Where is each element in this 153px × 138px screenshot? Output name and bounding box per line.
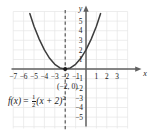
x-tick-label-3: 3: [115, 72, 119, 81]
equation-exponent: 2: [62, 94, 65, 101]
x-tick-label-neg7: −7: [9, 72, 17, 81]
vertex-point-marker: [63, 67, 67, 71]
x-tick-label-neg6: −6: [20, 72, 28, 81]
y-tick-label-3: 3: [79, 36, 83, 45]
y-tick-label-5: 5: [79, 17, 83, 26]
function-equation: f(x) = 12(x + 2)2: [8, 94, 66, 108]
y-axis-label: y: [78, 4, 83, 13]
graph-canvas: −7 −6 −5 −4 −3 −2 −1 1 2 3 1 2 3 4 5 −1 …: [0, 0, 153, 138]
y-axis: [83, 6, 88, 127]
y-tick-label-neg4: −4: [75, 103, 83, 112]
y-tick-label-neg5: −5: [75, 113, 83, 122]
x-tick-label-neg5: −5: [30, 72, 38, 81]
x-tick-label-neg4: −4: [40, 72, 48, 81]
equation-binomial: (x + 2): [36, 96, 62, 106]
x-axis-label: x: [142, 69, 147, 78]
grid-lines: [13, 12, 127, 129]
x-axis: [12, 66, 142, 71]
y-tick-label-1: 1: [79, 55, 83, 64]
x-tick-label-neg3: −3: [51, 72, 59, 81]
x-tick-label-2: 2: [105, 72, 109, 81]
y-tick-label-neg3: −3: [75, 94, 83, 103]
y-tick-label-2: 2: [79, 46, 83, 55]
equation-lhs: f(x): [8, 96, 21, 106]
x-tick-label-neg2: −2: [61, 72, 69, 81]
x-tick-label-1: 1: [95, 72, 99, 81]
y-tick-label-4: 4: [79, 26, 83, 35]
parabola-graph-figure: −7 −6 −5 −4 −3 −2 −1 1 2 3 1 2 3 4 5 −1 …: [0, 0, 153, 138]
vertex-point-label: (−2, 0): [57, 82, 78, 91]
